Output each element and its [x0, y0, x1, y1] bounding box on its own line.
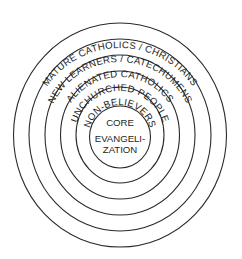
- core-title: CORE: [106, 117, 134, 128]
- core-line-2: EVANGELI-: [95, 133, 145, 144]
- ring-labels: MATURE CATHOLICS / CHRISTIANS NEW LEARNE…: [40, 39, 200, 129]
- core-line-3: ZATION: [103, 144, 138, 155]
- core-labels: CORE EVANGELI- ZATION: [95, 117, 145, 155]
- concentric-diagram: MATURE CATHOLICS / CHRISTIANS NEW LEARNE…: [0, 0, 242, 259]
